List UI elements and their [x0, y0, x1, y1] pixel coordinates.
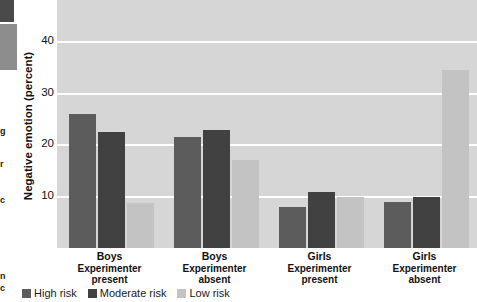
- caption-condition-line2: present: [57, 274, 162, 286]
- chart-legend: High riskModerate riskLow risk: [22, 286, 237, 300]
- legend-swatch-icon: [22, 289, 31, 298]
- bar-moderate-risk-group-2: [203, 130, 230, 248]
- legend-swatch-icon: [88, 289, 97, 298]
- caption-group: Girls: [413, 250, 437, 262]
- x-axis-caption-4: GirlsExperimenterabsent: [372, 249, 477, 289]
- bar-high-risk-group-1: [69, 114, 96, 248]
- y-tick-label-20: 20: [28, 137, 54, 149]
- y-tick-label-10: 10: [28, 189, 54, 201]
- plot-area: [57, 0, 477, 248]
- bar-moderate-risk-group-1: [98, 132, 125, 248]
- legend-item-moderate-risk: Moderate risk: [88, 287, 167, 299]
- x-axis-caption-2: BoysExperimenterabsent: [162, 249, 267, 289]
- caption-condition-line2: absent: [162, 274, 267, 286]
- bar-low-risk-group-1: [127, 203, 154, 248]
- gridline-30: [57, 93, 477, 95]
- legend-swatch-icon: [177, 289, 186, 298]
- page-edge-artifact-second: [0, 24, 17, 70]
- caption-condition-line2: absent: [372, 274, 477, 286]
- page-edge-text-fragment-3: c: [0, 196, 5, 205]
- bar-high-risk-group-4: [384, 202, 411, 248]
- legend-item-high-risk: High risk: [22, 287, 77, 299]
- x-axis-caption-1: BoysExperimenterpresent: [57, 249, 162, 289]
- legend-label: Low risk: [189, 287, 229, 299]
- bar-low-risk-group-4: [442, 70, 469, 248]
- bar-moderate-risk-group-4: [413, 197, 440, 249]
- caption-group: Girls: [308, 250, 332, 262]
- bar-high-risk-group-3: [279, 207, 306, 248]
- page-edge-text-fragment-1: g: [0, 127, 5, 136]
- caption-condition-line2: present: [267, 274, 372, 286]
- chart-figure: grcnc Negative emotion (percent) 1020304…: [0, 0, 477, 302]
- bar-moderate-risk-group-3: [308, 192, 335, 248]
- page-edge-text-fragment-4: n: [0, 272, 5, 281]
- caption-condition-line1: Experimenter: [267, 263, 372, 275]
- page-edge-text-fragment-5: c: [0, 284, 5, 293]
- y-tick-label-30: 30: [28, 86, 54, 98]
- bar-low-risk-group-3: [337, 197, 364, 249]
- page-edge-artifact-top: [0, 0, 14, 22]
- caption-condition-line1: Experimenter: [372, 263, 477, 275]
- caption-group: Boys: [97, 250, 123, 262]
- legend-item-low-risk: Low risk: [177, 287, 229, 299]
- x-axis-group-captions: BoysExperimenterpresentBoysExperimentera…: [57, 249, 477, 289]
- bar-low-risk-group-2: [232, 160, 259, 248]
- y-tick-label-40: 40: [28, 34, 54, 46]
- legend-label: High risk: [34, 287, 77, 299]
- page-edge-text-fragment-2: r: [0, 160, 3, 169]
- bar-high-risk-group-2: [174, 137, 201, 248]
- caption-group: Boys: [202, 250, 228, 262]
- y-axis-tick-labels: 10203040: [28, 0, 54, 302]
- gridline-40: [57, 41, 477, 43]
- x-axis-caption-3: GirlsExperimenterpresent: [267, 249, 372, 289]
- caption-condition-line1: Experimenter: [162, 263, 267, 275]
- caption-condition-line1: Experimenter: [57, 263, 162, 275]
- legend-label: Moderate risk: [100, 287, 167, 299]
